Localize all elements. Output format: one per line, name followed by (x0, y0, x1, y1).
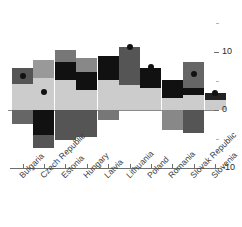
marker-dot (41, 89, 47, 95)
bar-segment (140, 88, 161, 110)
bar-segment (98, 110, 119, 120)
bar-segment (119, 85, 140, 110)
bar-segment (119, 47, 140, 85)
bar-group[interactable] (33, 0, 54, 227)
marker-dot (148, 64, 154, 70)
marker-dot (127, 44, 133, 50)
bar-segment (162, 110, 183, 130)
bar-segment (162, 98, 183, 110)
bar-group[interactable] (119, 0, 140, 227)
marker-dot (191, 71, 197, 77)
marker-dot (20, 73, 26, 79)
plot-area: 100-10 BulgariaCzech RepublicEstoniaHung… (0, 0, 242, 227)
bar-segment (33, 135, 54, 148)
bar-segment (55, 110, 76, 140)
bar-group[interactable] (183, 0, 204, 227)
bar-group[interactable] (140, 0, 161, 227)
chart-root: 100-10 BulgariaCzech RepublicEstoniaHung… (0, 0, 242, 227)
bar-group[interactable] (162, 0, 183, 227)
y-tick-mark (214, 110, 219, 111)
bar-segment (140, 68, 161, 88)
y-tick-mark (214, 52, 219, 53)
bar-segment (12, 84, 33, 110)
bar-segment (12, 110, 33, 124)
bar-segment (76, 58, 97, 72)
bar-segment (76, 72, 97, 91)
bar-segment (183, 95, 204, 110)
bar-segment (55, 62, 76, 80)
bar-segment (183, 110, 204, 133)
bar-group[interactable] (12, 0, 33, 227)
bar-segment (76, 90, 97, 110)
bar-segment (55, 80, 76, 110)
bar-segment (162, 80, 183, 99)
bar-group[interactable] (98, 0, 119, 227)
y-tick-label: 10 (222, 46, 232, 56)
bar-segment (98, 56, 119, 80)
bar-segment (33, 110, 54, 135)
y-tick-label: 0 (222, 104, 227, 114)
bar-segment (33, 60, 54, 78)
bar-group[interactable] (55, 0, 76, 227)
bar-segment (98, 80, 119, 110)
bar-segment (183, 88, 204, 95)
bar-group[interactable] (76, 0, 97, 227)
y-minor-tick (216, 139, 219, 140)
bar-segment (55, 50, 76, 62)
y-minor-tick (216, 81, 219, 82)
y-minor-tick (216, 23, 219, 24)
